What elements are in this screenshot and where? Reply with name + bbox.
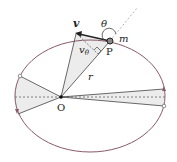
label-mass: m: [119, 33, 128, 44]
label-theta: θ: [101, 18, 107, 29]
label-origin: O: [57, 102, 65, 113]
label-radius: r: [88, 71, 94, 82]
orbit-point-right-lower: [162, 104, 166, 108]
orbit-arrow-right: [162, 86, 166, 91]
swept-area-left: [14, 76, 61, 114]
swept-area-right: [61, 89, 164, 106]
origin-point: [59, 95, 63, 99]
label-point-p: P: [106, 46, 113, 57]
particle-m: [107, 38, 113, 44]
label-velocity: v: [73, 17, 80, 30]
orbit-point-left-upper: [18, 74, 22, 78]
kepler-diagram: v θ m P vθ r O: [0, 0, 177, 162]
